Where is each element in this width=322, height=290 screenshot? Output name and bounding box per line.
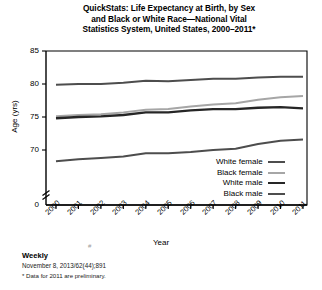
x-axis-title: Year [0, 238, 322, 247]
legend-swatch-white-male [268, 182, 285, 184]
series-line-white-female [56, 77, 303, 85]
series-line-black-female [56, 96, 303, 116]
legend-item-white-female: White female [216, 157, 285, 168]
legend-item-black-female: Black female [216, 168, 285, 179]
y-tick-label-75: 75 [17, 113, 39, 121]
legend-item-black-male: Black male [216, 189, 285, 200]
y-tick-label-70: 70 [17, 146, 39, 154]
y-tick-label-80: 80 [17, 80, 39, 88]
footer-citation: November 8, 2013/62(44);891 [22, 261, 312, 270]
legend-label-black-male: Black male [224, 189, 263, 200]
stray-artifact: # [88, 243, 91, 249]
y-tick-label-0: 0 [17, 201, 39, 209]
legend-item-white-male: White male [216, 178, 285, 189]
chart-series-lines [56, 77, 303, 161]
quickstats-life-expectancy-figure: QuickStats: Life Expectancy at Birth, by… [0, 0, 322, 290]
legend-label-white-male: White male [223, 178, 263, 189]
legend-swatch-black-female [268, 172, 285, 174]
legend-swatch-black-male [268, 193, 285, 195]
legend-swatch-white-female [268, 161, 285, 163]
footer-weekly-label: Weekly [22, 251, 312, 261]
footer-footnote: * Data for 2011 are preliminary. [22, 271, 312, 280]
figure-footer: Weekly November 8, 2013/62(44);891 * Dat… [22, 251, 312, 280]
chart-legend: White femaleBlack femaleWhite maleBlack … [216, 157, 285, 199]
y-axis-title: Age (yrs) [10, 87, 19, 147]
legend-label-black-female: Black female [217, 168, 263, 179]
series-line-white-male [56, 107, 303, 118]
legend-label-white-female: White female [216, 157, 263, 168]
y-tick-label-85: 85 [17, 47, 39, 55]
